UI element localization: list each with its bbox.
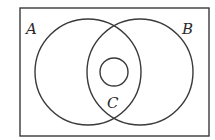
set-a-label: A	[24, 20, 37, 38]
set-a-circle	[35, 19, 141, 125]
set-c-label: C	[107, 94, 119, 112]
set-b-label: B	[181, 20, 193, 38]
set-c-circle	[100, 58, 128, 86]
set-b-circle	[87, 19, 193, 125]
universe-rectangle	[20, 8, 209, 136]
venn-diagram: A B C	[0, 0, 215, 140]
